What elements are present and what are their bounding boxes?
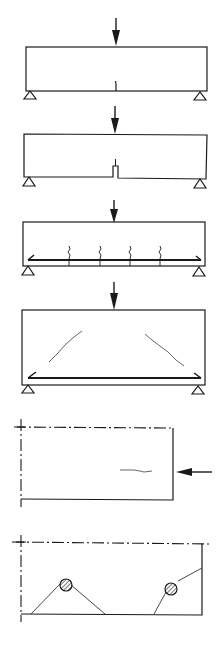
shear-cracks <box>49 331 184 366</box>
support-left-icon <box>22 385 34 393</box>
half-model-outline <box>21 544 202 615</box>
support-right-icon <box>194 179 206 188</box>
load-arrow-icon <box>112 18 120 46</box>
load-arrow-icon <box>110 282 118 310</box>
support-right-icon <box>192 386 204 394</box>
panel-1 <box>24 18 207 100</box>
support-left-icon <box>24 91 36 99</box>
splitting-crack <box>120 470 152 472</box>
half-model-outline <box>21 428 173 500</box>
symmetry-line-horizontal <box>12 542 212 544</box>
panel-6 <box>12 535 212 622</box>
support-left-icon <box>23 177 35 186</box>
rebar-cross-section-icon <box>165 583 177 595</box>
panel-2 <box>23 106 207 188</box>
support-right-icon <box>194 92 206 100</box>
panel-5 <box>14 419 212 507</box>
support-right-icon <box>193 267 205 276</box>
panel-4 <box>22 282 205 394</box>
load-arrow-icon <box>110 200 118 223</box>
symmetry-line-horizontal <box>14 427 173 428</box>
reinforcement-bar <box>28 372 201 378</box>
diagram-canvas <box>0 0 224 647</box>
notched-beam <box>24 134 207 179</box>
flexural-cracks <box>68 246 161 266</box>
load-arrow-icon <box>111 106 119 134</box>
deep-beam <box>22 310 205 385</box>
crack <box>116 81 117 91</box>
rebar-cross-section-icon <box>60 579 72 591</box>
panel-3 <box>22 200 205 276</box>
reinforcement-bar <box>28 255 201 260</box>
support-left-icon <box>22 266 34 275</box>
horizontal-load-arrow-icon <box>176 468 212 476</box>
